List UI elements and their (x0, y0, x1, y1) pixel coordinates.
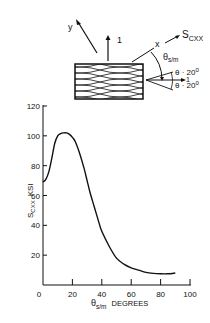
theta-arc (151, 52, 162, 79)
arrow-head-icon (76, 19, 81, 25)
y-axis-label: SCXXKSI (26, 183, 36, 218)
fiber-line-upper (146, 72, 173, 80)
y-tick-label: 20 (31, 251, 40, 260)
diagram-y-label: y (68, 22, 73, 32)
theta-label: θs/m (163, 52, 179, 63)
lamina-diagram: y 1 x SCXX θs/m θ · 200 1 (60, 19, 203, 100)
figure: y 1 x SCXX θs/m θ · 200 1 (0, 0, 210, 323)
fiber-line-lower (146, 80, 173, 90)
diagram-x-label: x (155, 39, 160, 49)
y-axis-arrow (78, 22, 97, 53)
y-tick-label: 40 (31, 221, 40, 230)
x-tick-label: 40 (97, 290, 106, 299)
stress-label: SCXX (182, 29, 203, 42)
x-tick-label: 20 (68, 290, 77, 299)
x-tick-label: 60 (127, 290, 136, 299)
y-tick-label: 100 (27, 132, 41, 141)
x-tick-label: 0 (37, 290, 42, 299)
stress-curve (43, 133, 175, 274)
angle-lower-label: θ · 200 (175, 80, 199, 90)
x-tick-label: 100 (183, 290, 197, 299)
x-tick-label: 80 (156, 290, 165, 299)
diagram-1-label: 1 (117, 35, 122, 45)
chart: 20406080100120 020406080100 SCXXKSI θs/m… (26, 102, 197, 310)
lamina-rect (75, 64, 143, 99)
arrow-head-icon (175, 35, 180, 39)
x-axis-label: θs/mDEGREES (91, 298, 148, 310)
arrow-head-icon (106, 35, 111, 40)
x-axis-line (132, 48, 154, 62)
x-ticks: 020406080100 (37, 279, 197, 299)
y-tick-label: 80 (31, 162, 40, 171)
y-tick-label: 120 (27, 102, 41, 111)
